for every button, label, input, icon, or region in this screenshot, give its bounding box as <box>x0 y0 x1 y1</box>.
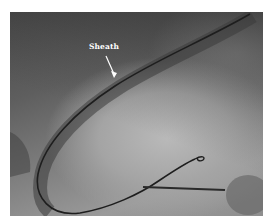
wire-hook <box>195 157 204 161</box>
sheath-label: Sheath <box>89 42 119 51</box>
sheath-arrow-head <box>111 71 117 78</box>
fluoroscopy-image: Sheath <box>10 12 263 216</box>
sheath-arrow-shaft <box>106 56 114 74</box>
left-structure <box>10 132 30 177</box>
guidewire <box>37 14 250 214</box>
sheath-band <box>40 16 253 212</box>
image-overlay <box>10 12 263 216</box>
catheter-line <box>143 187 225 190</box>
device-shadow <box>226 175 263 215</box>
